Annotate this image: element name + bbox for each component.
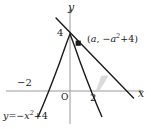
x-tick-label-neg2: −2: [17, 78, 32, 88]
shaded-region: [96, 76, 109, 92]
tangent-line: [56, 18, 134, 98]
y-axis-label: y: [68, 2, 74, 13]
equation-plus-four: +4: [34, 110, 48, 121]
y-tick-label-4: 4: [57, 28, 63, 38]
point-label-plus-four: +4): [120, 33, 138, 44]
figure-container: y x O −2 2 4 (a, −a2+4) y=−x2+4: [0, 0, 151, 129]
equation-equals-minus: =−: [8, 110, 24, 121]
y-axis: [68, 9, 72, 124]
origin-label: O: [61, 93, 68, 102]
point-label-comma-minus: , −: [96, 33, 110, 44]
tangency-point-label: (a, −a2+4): [87, 33, 138, 44]
x-axis-label: x: [138, 88, 144, 99]
curve-equation-label: y=−x2+4: [3, 110, 48, 121]
tangency-point-marker: [76, 41, 81, 46]
x-tick-label-2: 2: [90, 93, 96, 103]
x-axis: [6, 89, 143, 93]
